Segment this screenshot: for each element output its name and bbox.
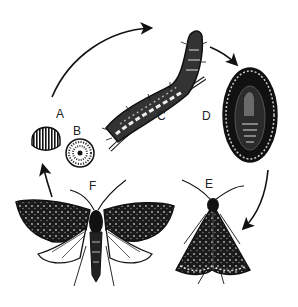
arrow-pupa-to-adult: [244, 170, 268, 228]
moth-life-cycle-diagram: A B C D E F: [0, 0, 298, 307]
label-f: F: [89, 180, 96, 192]
label-b: B: [73, 125, 81, 137]
arrow-adult-to-egg: [43, 166, 52, 197]
moth-folded-icon: [176, 180, 250, 284]
pupa-icon: [223, 68, 277, 162]
label-c: C: [157, 110, 166, 122]
caterpillar-icon: [102, 31, 207, 150]
label-d: D: [202, 110, 211, 122]
arrow-larva-to-pupa: [210, 47, 236, 64]
diagram-art: [0, 0, 298, 307]
label-e: E: [205, 178, 213, 190]
egg-top-icon: [66, 139, 94, 167]
egg-side-icon: [32, 127, 60, 150]
label-a: A: [56, 108, 64, 120]
moth-spread-icon: [16, 180, 174, 286]
arrow-egg-to-larva: [52, 28, 150, 97]
